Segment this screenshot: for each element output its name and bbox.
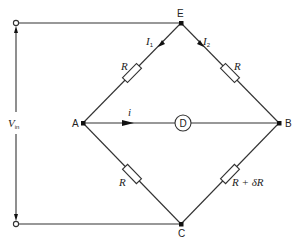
vin-label: Vin xyxy=(8,117,19,130)
current-I2-label-subscript: 2 xyxy=(207,42,211,48)
node-E-label: E xyxy=(177,8,184,19)
current-i-arrow-icon xyxy=(122,120,134,126)
resistor-AE-label: R xyxy=(120,60,128,72)
node-A xyxy=(81,121,86,126)
current-i-label: i xyxy=(128,106,131,118)
node-C-label: C xyxy=(178,228,185,239)
resistor-CB-label: R + δR xyxy=(231,176,264,188)
node-C xyxy=(179,222,184,227)
current-I1-label: I1 xyxy=(145,35,154,48)
vin-arrow-up-icon xyxy=(14,26,18,33)
current-I1-label-subscript: 1 xyxy=(150,42,154,48)
resistor-EB-label: R xyxy=(233,60,241,72)
node-A-label: A xyxy=(72,118,79,129)
resistor-AC-label: R xyxy=(118,176,126,188)
node-B-label: B xyxy=(285,118,292,129)
wheatstone-bridge-diagram: Vin R R R R + δR D i I1 I2 E A B C xyxy=(0,0,301,243)
vin-label-subscript: in xyxy=(15,124,20,130)
detector-label: D xyxy=(179,118,186,129)
node-B xyxy=(277,121,282,126)
current-I2-label: I2 xyxy=(202,35,211,48)
node-E xyxy=(179,21,184,26)
top-terminal xyxy=(13,20,18,25)
bottom-terminal xyxy=(13,221,18,226)
vin-arrow-down-icon xyxy=(14,214,18,221)
